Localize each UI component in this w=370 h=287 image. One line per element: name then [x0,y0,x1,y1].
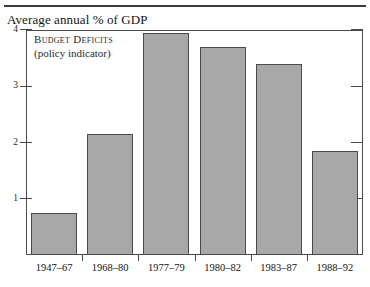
bar-1980-82 [200,47,246,255]
bar-1968-80 [87,134,133,255]
series-annotation-title: Budget Deficits [34,33,154,47]
x-tick-mark [307,255,308,261]
bar-1947-67 [31,213,77,255]
chart-figure: Average annual % of GDP Budget Deficits … [0,0,370,287]
bar-1977-79 [143,33,189,255]
top-rule-divider [4,5,366,7]
x-tick-mark [195,255,196,261]
bar-1983-87 [256,64,302,255]
x-axis-label: 1968–80 [82,262,138,274]
y-tick-mark-left [20,86,32,87]
y-tick-mark-right [351,142,363,143]
bar-1988-92 [312,151,358,255]
x-axis-label: 1983–87 [251,262,307,274]
y-tick-mark-right [351,29,363,30]
y-tick-mark-left [20,198,32,199]
y-axis-label: 1 [4,194,18,204]
y-axis-label: 3 [4,81,18,91]
x-tick-mark [251,255,252,261]
y-tick-mark-right [351,86,363,87]
x-axis-label: 1977–79 [138,262,194,274]
series-annotation: Budget Deficits (policy indicator) [34,33,154,60]
series-annotation-subtitle: (policy indicator) [34,47,154,61]
y-axis-label: 4 [4,25,18,35]
x-axis-label: 1988–92 [307,262,363,274]
y-tick-mark-left [20,142,32,143]
y-tick-mark-left [20,29,32,30]
x-axis-label: 1980–82 [195,262,251,274]
y-axis-label: 2 [4,138,18,148]
x-tick-mark [82,255,83,261]
x-tick-mark [138,255,139,261]
chart-title: Average annual % of GDP [7,12,148,27]
x-axis-label: 1947–67 [26,262,82,274]
